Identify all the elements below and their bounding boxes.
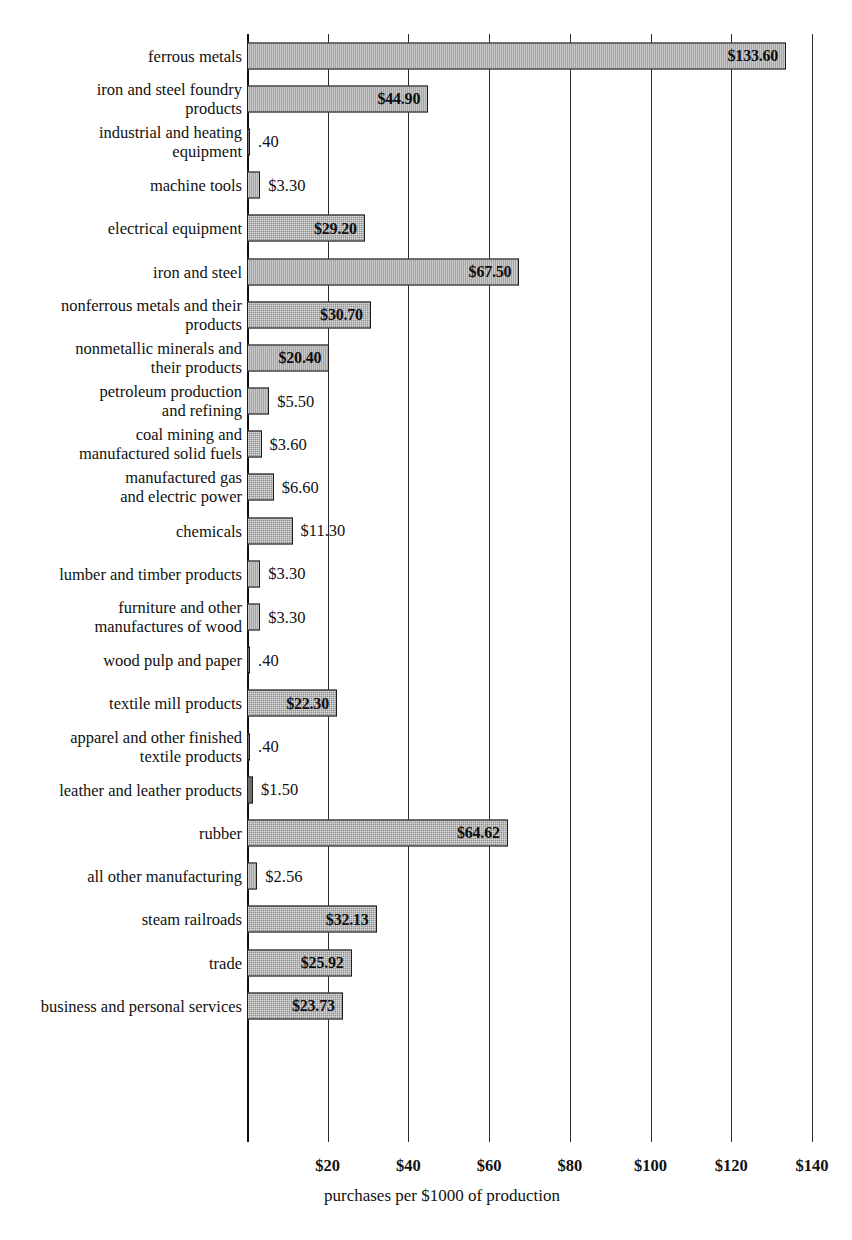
bar-value-label: .40 [250, 737, 279, 757]
x-axis-title: purchases per $1000 of production [0, 1186, 852, 1206]
bar-container: $20.40 [247, 344, 329, 371]
bar-container: $3.60 [247, 431, 307, 458]
bar-category-label: wood pulp and paper [0, 651, 242, 670]
bar-value-label: $1.50 [253, 780, 298, 800]
bar-container: $30.70 [247, 301, 371, 328]
bar-value-label: $67.50 [469, 263, 519, 281]
bar-row: chemicals$11.30 [0, 509, 852, 552]
bar-value-label: $2.56 [257, 866, 302, 886]
bar-row: iron and steel foundry products$44.90 [0, 77, 852, 120]
bar: $22.30 [247, 690, 337, 717]
bar-category-label: business and personal services [0, 996, 242, 1015]
bar-value-label: $3.30 [260, 175, 305, 195]
bar-category-label: textile mill products [0, 694, 242, 713]
bar-container: $29.20 [247, 215, 365, 242]
bar-category-label: industrial and heating equipment [0, 123, 242, 161]
bar-container: $6.60 [247, 474, 319, 501]
bar-value-label: $6.60 [274, 477, 319, 497]
x-tick-label: $20 [315, 1156, 340, 1176]
bar-row: wood pulp and paper.40 [0, 639, 852, 682]
bar-category-label: coal mining and manufactured solid fuels [0, 425, 242, 463]
bar-category-label: iron and steel [0, 262, 242, 281]
x-tick-label: $100 [634, 1156, 667, 1176]
bar: $30.70 [247, 301, 371, 328]
bar [247, 172, 260, 199]
bar-container: $3.30 [247, 172, 305, 199]
bar: $23.73 [247, 992, 343, 1019]
bar-value-label: $3.30 [260, 564, 305, 584]
bar-value-label: $44.90 [377, 90, 427, 108]
bar: $29.20 [247, 215, 365, 242]
bar-container: $64.62 [247, 819, 508, 846]
bar-value-label: $23.73 [292, 997, 342, 1015]
bar-category-label: steam railroads [0, 910, 242, 929]
bar [247, 388, 269, 415]
bar-container: $25.92 [247, 949, 352, 976]
bar: $67.50 [247, 258, 519, 285]
bar-row: electrical equipment$29.20 [0, 207, 852, 250]
bar-row: coal mining and manufactured solid fuels… [0, 423, 852, 466]
bar-row: machine tools$3.30 [0, 164, 852, 207]
bar-category-label: apparel and other finished textile produ… [0, 728, 242, 766]
bar-category-label: leather and leather products [0, 780, 242, 799]
bar-container: $23.73 [247, 992, 343, 1019]
bar [247, 517, 293, 544]
bar-container: $3.30 [247, 604, 305, 631]
bar [247, 474, 274, 501]
bar-category-label: all other manufacturing [0, 867, 242, 886]
bar-category-label: nonmetallic minerals and their products [0, 339, 242, 377]
bar-row: furniture and other manufactures of wood… [0, 595, 852, 638]
bar-value-label: $32.13 [326, 910, 376, 928]
bar [247, 431, 262, 458]
bar [247, 776, 253, 803]
bar: $32.13 [247, 906, 377, 933]
bar: $133.60 [247, 42, 786, 69]
bar-value-label: $5.50 [269, 391, 314, 411]
bar-row: lumber and timber products$3.30 [0, 552, 852, 595]
bar-container: .40 [247, 128, 279, 155]
bar-row: nonferrous metals and their products$30.… [0, 293, 852, 336]
bar-container: $44.90 [247, 85, 428, 112]
bar-container: $2.56 [247, 863, 302, 890]
bar-row: trade$25.92 [0, 941, 852, 984]
bar-value-label: $22.30 [286, 694, 336, 712]
bar-value-label: .40 [250, 132, 279, 152]
bar-row: petroleum production and refining$5.50 [0, 380, 852, 423]
bar-row: textile mill products$22.30 [0, 682, 852, 725]
bar-value-label: $133.60 [728, 47, 786, 65]
bar-category-label: nonferrous metals and their products [0, 296, 242, 334]
bar [247, 647, 250, 674]
x-axis-title-text: purchases per $1000 of production [324, 1186, 560, 1206]
bar-container: $5.50 [247, 388, 314, 415]
x-tick-label: $120 [715, 1156, 748, 1176]
bar-row: manufactured gas and electric power$6.60 [0, 466, 852, 509]
bar: $25.92 [247, 949, 352, 976]
bar-category-label: ferrous metals [0, 46, 242, 65]
bar-row: nonmetallic minerals and their products$… [0, 336, 852, 379]
bar-value-label: $29.20 [314, 219, 364, 237]
bar-row: ferrous metals$133.60 [0, 34, 852, 77]
bar-container: $67.50 [247, 258, 519, 285]
bar-category-label: machine tools [0, 176, 242, 195]
bar-container: $3.30 [247, 560, 305, 587]
x-tick-label: $140 [796, 1156, 829, 1176]
bar-value-label: $3.60 [262, 434, 307, 454]
bar-container: $1.50 [247, 776, 298, 803]
bar-container: $22.30 [247, 690, 337, 717]
bar-value-label: $3.30 [260, 607, 305, 627]
bar-category-label: lumber and timber products [0, 564, 242, 583]
bar-row: iron and steel$67.50 [0, 250, 852, 293]
bar-category-label: iron and steel foundry products [0, 80, 242, 118]
bar [247, 128, 250, 155]
bar-row: leather and leather products$1.50 [0, 768, 852, 811]
bar-category-label: petroleum production and refining [0, 382, 242, 420]
bar-category-label: manufactured gas and electric power [0, 468, 242, 506]
bar-value-label: $30.70 [320, 306, 370, 324]
bar-value-label: $20.40 [279, 349, 329, 367]
bar-category-label: electrical equipment [0, 219, 242, 238]
x-axis: $20$40$60$80$100$120$140 [247, 1142, 812, 1182]
bar-container: $11.30 [247, 517, 345, 544]
bar-row: all other manufacturing$2.56 [0, 855, 852, 898]
bar-category-label: chemicals [0, 521, 242, 540]
bar-row: rubber$64.62 [0, 811, 852, 854]
